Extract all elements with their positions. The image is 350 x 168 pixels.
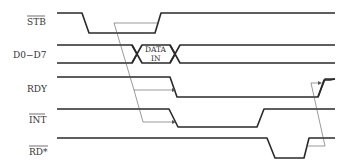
waveform-rdy: [57, 77, 335, 97]
arrow-rd-to-rdy: [306, 83, 325, 146]
label-rd: RD*: [29, 147, 48, 157]
label-d0-d7: D0−D7: [13, 50, 47, 60]
signal-labels: STB D0−D7 RDY INT RD*: [13, 16, 48, 157]
waveform-d0-d7: DATA IN: [57, 45, 335, 63]
waveform-int: [57, 109, 335, 127]
bus-label-in: IN: [151, 54, 161, 63]
waveform-stb: [57, 13, 335, 33]
label-rdy: RDY: [27, 84, 48, 94]
bus-label-data: DATA: [145, 45, 167, 54]
arrowhead-rdy-rise: [318, 81, 322, 85]
label-stb: STB: [27, 17, 46, 27]
arrow-stb-to-int: [134, 90, 172, 122]
label-int: INT: [29, 115, 46, 125]
waveform-rd: [57, 138, 335, 158]
timing-diagram: STB D0−D7 RDY INT RD* DATA IN: [0, 0, 350, 168]
